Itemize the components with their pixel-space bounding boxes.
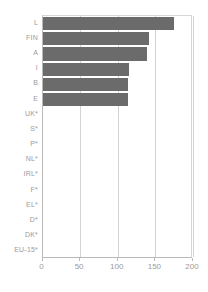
bar-row: [43, 168, 192, 183]
category-label: D*: [0, 216, 38, 223]
bar-a: [43, 47, 148, 60]
bar-row: [43, 77, 192, 92]
bar-i: [43, 63, 130, 76]
category-label: EL*: [0, 201, 38, 208]
plot-area: [42, 15, 193, 258]
tick-label: 50: [75, 263, 84, 271]
bar-l: [43, 17, 175, 30]
category-label: E: [0, 95, 38, 102]
category-label: IRL*: [0, 170, 38, 177]
gridline: [193, 16, 194, 257]
bar-row: [43, 16, 192, 31]
bar-series: [43, 16, 192, 257]
bar-row: [43, 198, 192, 213]
tick-mark: [154, 258, 155, 261]
tick-mark: [117, 258, 118, 261]
category-label: FIN: [0, 34, 38, 41]
category-label: S*: [0, 125, 38, 132]
category-label: A: [0, 49, 38, 56]
category-label: UK*: [0, 110, 38, 117]
category-label: P*: [0, 140, 38, 147]
bar-row: [43, 244, 192, 259]
category-label: B: [0, 79, 38, 86]
bar-row: [43, 138, 192, 153]
bar-row: [43, 183, 192, 198]
bar-row: [43, 107, 192, 122]
bar-b: [43, 78, 129, 91]
category-label: I: [0, 64, 38, 71]
bar-chart: LFINAIBEUK*S*P*NL*IRL*F*EL*D*DK*EU-15* 0…: [0, 0, 208, 292]
category-label: L: [0, 19, 38, 26]
category-label: DK*: [0, 231, 38, 238]
tick-label: 200: [185, 263, 198, 271]
tick-label: 100: [110, 263, 123, 271]
bar-row: [43, 92, 192, 107]
bar-e: [43, 93, 129, 106]
bar-fin: [43, 32, 149, 45]
bar-row: [43, 62, 192, 77]
bar-row: [43, 229, 192, 244]
value-axis-labels: 050100150200: [0, 263, 208, 277]
bar-row: [43, 46, 192, 61]
tick-label: 0: [39, 263, 43, 271]
tick-mark: [79, 258, 80, 261]
category-label: F*: [0, 186, 38, 193]
tick-mark: [42, 258, 43, 261]
tick-mark: [192, 258, 193, 261]
category-label: NL*: [0, 155, 38, 162]
category-axis-labels: LFINAIBEUK*S*P*NL*IRL*F*EL*D*DK*EU-15*: [0, 15, 38, 258]
bar-row: [43, 31, 192, 46]
bar-row: [43, 122, 192, 137]
bar-row: [43, 213, 192, 228]
tick-label: 150: [148, 263, 161, 271]
category-label: EU-15*: [0, 246, 38, 253]
bar-row: [43, 153, 192, 168]
